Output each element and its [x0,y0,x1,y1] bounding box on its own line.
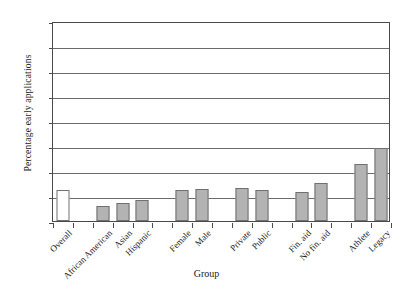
bar-slot [311,23,331,221]
bar-slot [292,23,312,221]
bar-slot [351,23,371,221]
bar [375,148,388,222]
x-category-label: Public [249,228,272,251]
bar [116,203,129,222]
y-axis-title: Percentage early applications [23,23,33,203]
bar-slot [93,23,113,221]
x-axis-title: Group [0,268,413,279]
bar-slot [113,23,133,221]
bar [136,200,149,221]
x-category-label: Athlete [346,228,372,254]
bar [56,190,69,221]
x-category-label: Male [193,228,213,248]
x-category-label: Legacy [366,228,392,254]
bar [255,190,268,222]
bar-slot [232,23,252,221]
bar [235,188,248,222]
bar-slot [252,23,272,221]
bar-slot [192,23,212,221]
x-category-label: Female [167,228,193,254]
bar-chart: Percentage early applications 0510152025… [0,0,413,293]
bar [176,190,189,221]
x-tick-mark [391,223,392,228]
bar-slot [133,23,153,221]
x-category-label: Private [228,228,253,253]
bar-slot [371,23,391,221]
bar [295,192,308,221]
bar [355,164,368,221]
bar-slot [172,23,192,221]
bar [96,206,109,222]
bar [315,183,328,221]
bar-slot [53,23,73,221]
bar [196,189,209,222]
plot-area [52,22,390,222]
x-category-label: Overall [48,228,74,254]
bars-group [53,23,389,221]
